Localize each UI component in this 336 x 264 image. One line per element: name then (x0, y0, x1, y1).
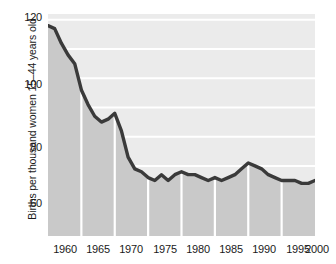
x-tick-label-1985: 1985 (214, 243, 248, 255)
x-tick-label-2000: 2000 (300, 243, 334, 255)
x-tick-label-1990: 1990 (247, 243, 281, 255)
x-tick-label-1980: 1980 (181, 243, 215, 255)
y-tick-label-60: 60 (14, 197, 42, 209)
x-tick-label-1975: 1975 (148, 243, 182, 255)
y-tick-label-120: 120 (14, 11, 42, 23)
y-tick-label-80: 80 (14, 141, 42, 153)
x-tick-label-1965: 1965 (81, 243, 115, 255)
x-tick-label-1960: 1960 (48, 243, 82, 255)
y-tick-label-100: 100 (14, 78, 42, 90)
plot-area (48, 14, 315, 236)
plot-svg (48, 14, 315, 236)
fertility-rate-chart: Births per thousand women 15–44 years ol… (0, 0, 336, 264)
x-tick-label-1970: 1970 (114, 243, 148, 255)
